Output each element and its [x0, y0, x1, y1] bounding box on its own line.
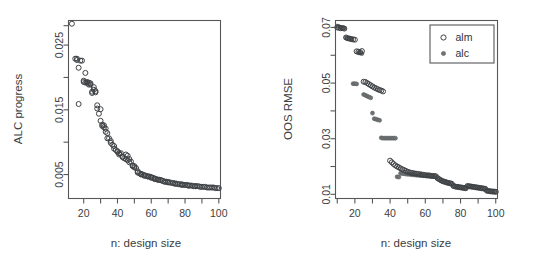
x-tick-label: 60: [145, 207, 157, 219]
y-tick-label: 0.03: [320, 128, 332, 149]
data-point-open: [76, 65, 81, 70]
data-point-open: [69, 21, 74, 26]
figure-container: 0.0050.0150.025 20406080100 ALC progress…: [0, 0, 556, 266]
data-point-filled: [355, 82, 359, 86]
chart-svg-right: 0.010.030.050.07 20406080100 almalc OOS …: [278, 0, 556, 266]
x-axis-title-left: n: design size: [111, 237, 181, 249]
x-tick-label: 40: [384, 207, 396, 219]
y-tick-label: 0.07: [320, 17, 332, 38]
data-points-alm-left: [69, 21, 221, 190]
x-axis-ticks-left: 20406080100: [78, 199, 228, 219]
data-point-open: [76, 102, 81, 107]
legend-right[interactable]: almalc: [430, 25, 494, 63]
y-axis-title-right: OOS RMSE: [282, 78, 294, 140]
x-tick-label: 80: [455, 207, 467, 219]
y-tick-label: 0.05: [320, 73, 332, 94]
y-axis-title-left: ALC progress: [12, 74, 24, 145]
x-tick-label: 20: [349, 207, 361, 219]
plot-frame-left: [69, 21, 221, 199]
legend-marker-filled: [441, 51, 445, 55]
x-tick-label: 40: [112, 207, 124, 219]
data-point-filled: [393, 136, 397, 140]
y-axis-ticks-left: 0.0050.0150.025: [53, 26, 68, 188]
legend-label-alc[interactable]: alc: [456, 47, 469, 59]
x-tick-label: 20: [78, 207, 90, 219]
x-axis-ticks-right: 20406080100: [337, 199, 504, 219]
data-point-open: [98, 107, 103, 112]
data-point-open: [83, 70, 88, 75]
x-tick-label: 60: [419, 207, 431, 219]
x-axis-title-right: n: design size: [381, 237, 451, 249]
data-point-filled: [370, 111, 374, 115]
y-tick-label: 0.005: [53, 161, 65, 187]
chart-svg-left: 0.0050.0150.025 20406080100 ALC progress…: [0, 0, 278, 266]
y-tick-label: 0.025: [53, 32, 65, 58]
data-point-filled: [369, 96, 373, 100]
x-tick-label: 100: [487, 207, 505, 219]
chart-panel-alc-progress: 0.0050.0150.025 20406080100 ALC progress…: [0, 0, 278, 266]
legend-label-alm[interactable]: alm: [456, 31, 473, 43]
data-point-filled: [378, 118, 382, 122]
chart-panel-oos-rmse: 0.010.030.050.07 20406080100 almalc OOS …: [278, 0, 556, 266]
y-tick-label: 0.01: [320, 184, 332, 205]
y-tick-label: 0.015: [53, 97, 65, 123]
x-tick-label: 100: [210, 207, 228, 219]
y-axis-ticks-right: 0.010.030.050.07: [320, 17, 335, 204]
data-point-filled: [397, 175, 401, 179]
x-tick-label: 80: [179, 207, 191, 219]
